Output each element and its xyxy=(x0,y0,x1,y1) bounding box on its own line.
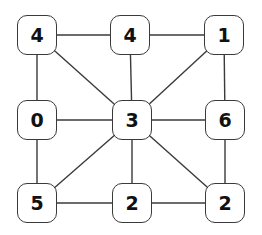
graph-node: 6 xyxy=(205,100,245,140)
graph-node: 3 xyxy=(112,100,152,140)
graph-node: 2 xyxy=(112,183,152,223)
graph-node: 0 xyxy=(17,100,57,140)
graph-node: 4 xyxy=(110,15,150,55)
graph-node: 5 xyxy=(17,183,57,223)
graph-node: 1 xyxy=(204,15,244,55)
graph-node: 4 xyxy=(17,15,57,55)
graph-node: 2 xyxy=(205,183,245,223)
